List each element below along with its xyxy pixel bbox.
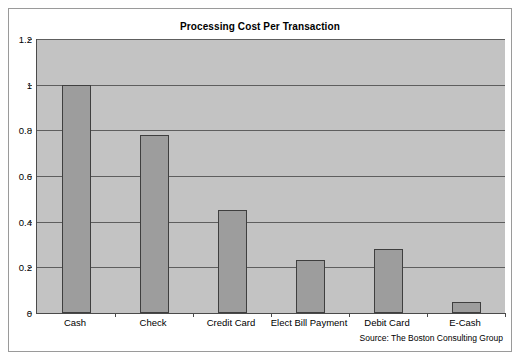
gridline <box>37 39 505 40</box>
plot-area <box>36 39 505 314</box>
bar <box>452 302 481 313</box>
x-axis-tick-labels: CashCheckCredit CardElect Bill PaymentDe… <box>36 317 505 333</box>
y-axis-tickmark <box>28 85 32 86</box>
bar <box>62 85 91 313</box>
y-axis-tick-labels: 00.20.40.60.811.2 <box>9 39 32 313</box>
x-axis-tick-label: E-Cash <box>449 317 481 328</box>
x-axis-tick-label: Elect Bill Payment <box>271 317 348 328</box>
y-axis-tickmark <box>28 222 32 223</box>
gridline <box>37 222 505 223</box>
x-axis-tick-label: Credit Card <box>207 317 256 328</box>
source-annotation: Source: The Boston Consulting Group <box>360 333 503 343</box>
gridline <box>37 130 505 131</box>
x-axis-tick-label: Check <box>140 317 167 328</box>
chart-title: Processing Cost Per Transaction <box>9 21 511 32</box>
x-axis-tick-label: Cash <box>64 317 86 328</box>
bar <box>374 249 403 313</box>
x-axis-tick-label: Debit Card <box>364 317 409 328</box>
bar <box>218 210 247 313</box>
gridline <box>37 85 505 86</box>
y-axis-tickmark <box>28 39 32 40</box>
y-axis-tickmark <box>28 130 32 131</box>
y-axis-tickmark <box>28 267 32 268</box>
gridline <box>37 267 505 268</box>
gridline <box>37 176 505 177</box>
bar <box>140 135 169 313</box>
x-axis-tickmark <box>505 313 506 317</box>
y-axis-tickmark <box>28 313 32 314</box>
bar <box>296 260 325 313</box>
y-axis-tickmark <box>28 176 32 177</box>
chart-frame: Processing Cost Per Transaction 00.20.40… <box>8 8 512 352</box>
